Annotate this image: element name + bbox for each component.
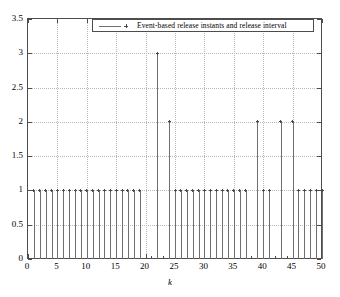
- stem-line: [104, 190, 105, 259]
- stem-line: [216, 190, 217, 259]
- data-point-marker: [209, 189, 212, 192]
- x-tick-label: 0: [25, 261, 30, 271]
- x-tick-label: 35: [228, 261, 237, 271]
- stem-line: [293, 122, 294, 259]
- data-point-marker: [297, 189, 300, 192]
- stem-line: [269, 190, 270, 259]
- x-tick-label: 40: [258, 261, 267, 271]
- data-point-marker: [309, 189, 312, 192]
- y-tick-label: 3.5: [12, 13, 23, 23]
- x-tick-label: 20: [140, 261, 149, 271]
- data-point-marker: [185, 189, 188, 192]
- x-tick-label: 50: [317, 261, 326, 271]
- stem-line: [199, 190, 200, 259]
- data-point-marker: [62, 189, 65, 192]
- y-tick-label: 0: [19, 253, 24, 263]
- data-point-marker: [38, 189, 41, 192]
- y-tick-mark: [28, 122, 32, 123]
- stem-line: [63, 190, 64, 259]
- x-minor-tick: [163, 256, 164, 258]
- data-point-marker: [197, 189, 200, 192]
- data-point-marker: [91, 189, 94, 192]
- data-point-marker: [303, 189, 306, 192]
- y-tick-label: 1.5: [12, 150, 23, 160]
- stem-line: [34, 190, 35, 259]
- x-tick-mark-top: [28, 19, 29, 23]
- y-tick-mark-right: [317, 156, 321, 157]
- x-tick-mark-top: [57, 19, 58, 23]
- data-point-marker: [168, 120, 171, 123]
- stem-line: [234, 190, 235, 259]
- data-point-marker: [256, 120, 259, 123]
- x-minor-tick: [275, 256, 276, 258]
- stem-line: [69, 190, 70, 259]
- stem-line: [140, 190, 141, 259]
- stem-line: [222, 190, 223, 259]
- stem-line: [169, 122, 170, 259]
- y-tick-label: 1: [19, 184, 24, 194]
- stem-line: [187, 190, 188, 259]
- stem-line: [281, 122, 282, 259]
- data-point-marker: [132, 189, 135, 192]
- plot-area: [27, 18, 322, 259]
- legend-label: Event-based release instants and release…: [137, 21, 287, 30]
- y-tick-label: 2: [19, 116, 24, 126]
- stem-line: [128, 190, 129, 259]
- stem-line: [157, 53, 158, 259]
- data-point-marker: [56, 189, 59, 192]
- gridline-vertical: [146, 19, 147, 258]
- x-minor-tick: [287, 256, 288, 258]
- data-point-marker: [262, 189, 265, 192]
- data-point-marker: [156, 52, 159, 55]
- stem-line: [134, 190, 135, 259]
- y-tick-mark-right: [317, 122, 321, 123]
- data-point-marker: [32, 189, 35, 192]
- y-tick-mark-right: [317, 259, 321, 260]
- stem-line: [57, 190, 58, 259]
- stem-line: [240, 190, 241, 259]
- data-point-marker: [174, 189, 177, 192]
- x-tick-label: 25: [170, 261, 179, 271]
- x-tick-label: 45: [287, 261, 296, 271]
- data-point-marker: [179, 189, 182, 192]
- x-minor-tick: [251, 256, 252, 258]
- stem-line: [46, 190, 47, 259]
- stem-line: [310, 190, 311, 259]
- data-point-marker: [291, 120, 294, 123]
- data-point-marker: [44, 189, 47, 192]
- legend-marker-sample: [124, 24, 128, 28]
- stem-line: [193, 190, 194, 259]
- figure: k Event-based release instants and relea…: [0, 0, 340, 297]
- y-tick-mark-right: [317, 225, 321, 226]
- data-point-marker: [244, 189, 247, 192]
- stem-line: [99, 190, 100, 259]
- data-point-marker: [268, 189, 271, 192]
- stem-line: [322, 190, 323, 259]
- data-point-marker: [97, 189, 100, 192]
- data-point-marker: [238, 189, 241, 192]
- y-tick-mark-right: [317, 53, 321, 54]
- stem-line: [257, 122, 258, 259]
- x-axis-label: k: [0, 277, 340, 287]
- data-point-marker: [221, 189, 224, 192]
- x-tick-mark: [28, 254, 29, 258]
- stem-line: [175, 190, 176, 259]
- stem-line: [75, 190, 76, 259]
- stem-line: [110, 190, 111, 259]
- stem-line: [316, 190, 317, 259]
- stem-line: [263, 190, 264, 259]
- stem-line: [304, 190, 305, 259]
- stem-line: [298, 190, 299, 259]
- x-tick-mark-top: [322, 19, 323, 23]
- y-tick-mark: [28, 88, 32, 89]
- data-point-marker: [121, 189, 124, 192]
- x-tick-label: 30: [199, 261, 208, 271]
- data-point-marker: [68, 189, 71, 192]
- stem-line: [204, 190, 205, 259]
- data-point-marker: [50, 189, 53, 192]
- stem-line: [210, 190, 211, 259]
- data-point-marker: [109, 189, 112, 192]
- data-point-marker: [203, 189, 206, 192]
- y-tick-mark: [28, 53, 32, 54]
- stem-line: [93, 190, 94, 259]
